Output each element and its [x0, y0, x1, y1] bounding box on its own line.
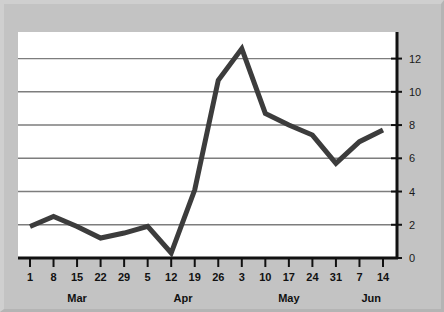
chart-figure: 024681012 181522295121926310172431714 Ma…: [0, 0, 444, 312]
x-tick-label: 10: [259, 271, 271, 283]
x-tick-label: 31: [330, 271, 342, 283]
x-tick-label: 15: [71, 271, 83, 283]
month-label-jun: Jun: [361, 292, 381, 304]
y-tick-label: 8: [409, 119, 415, 131]
line-chart-plot: 024681012 181522295121926310172431714 Ma…: [0, 0, 444, 312]
x-tick-label: 29: [118, 271, 130, 283]
x-tick-label: 14: [377, 271, 390, 283]
x-tick-label: 5: [145, 271, 151, 283]
month-label-apr: Apr: [173, 292, 193, 304]
x-tick-label: 1: [27, 271, 33, 283]
x-tick-label: 7: [356, 271, 362, 283]
x-tick-label: 22: [94, 271, 106, 283]
x-tick-label: 19: [189, 271, 201, 283]
y-tick-label: 10: [409, 86, 421, 98]
x-tick-label: 26: [212, 271, 224, 283]
month-label-may: May: [278, 292, 300, 304]
y-tick-label: 0: [409, 252, 415, 264]
x-tick-label: 17: [283, 271, 295, 283]
y-tick-label: 12: [409, 53, 421, 65]
x-tick-label: 3: [239, 271, 245, 283]
y-tick-label: 6: [409, 152, 415, 164]
y-tick-label: 2: [409, 219, 415, 231]
x-tick-label: 24: [306, 271, 319, 283]
x-tick-label: 8: [50, 271, 56, 283]
month-label-mar: Mar: [67, 292, 87, 304]
x-tick-label: 12: [165, 271, 177, 283]
y-tick-label: 4: [409, 186, 415, 198]
